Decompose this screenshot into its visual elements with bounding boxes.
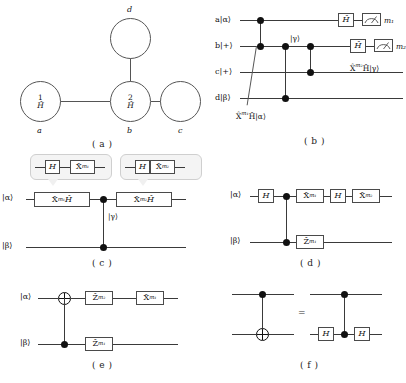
panel-d-gate-h1-label: H bbox=[263, 192, 270, 200]
panel-d-gate-x1[interactable]: X̂m₁ bbox=[296, 189, 324, 203]
panel-f-right-wire-bot-3 bbox=[370, 334, 382, 335]
graph-node-a-operator: Ĥ bbox=[37, 102, 44, 110]
panel-b-measure-b[interactable] bbox=[374, 39, 393, 52]
panel-f-right-control-dot-bottom[interactable] bbox=[341, 331, 348, 338]
panel-b-measure-result-1: m₁ bbox=[384, 16, 394, 25]
panel-c-bubble2-gate-x-sup: m₂ bbox=[162, 164, 169, 170]
panel-d-gate-x1-sup: m₁ bbox=[309, 193, 316, 199]
panel-e-cnot-link bbox=[64, 298, 65, 344]
panel-e-rail-label-alpha: |α⟩ bbox=[20, 292, 31, 301]
panel-b-h-gate-a-label: Ĥ bbox=[343, 16, 350, 24]
panel-d-gate-h2[interactable]: H bbox=[330, 189, 346, 203]
panel-b-cz-bd bbox=[285, 46, 286, 98]
panel-e-gate-z1[interactable]: Ẑm₁ bbox=[85, 337, 113, 351]
panel-b: a|α⟩ b|+⟩ c|+⟩ d|β⟩ Ĥ Ĥ bbox=[210, 0, 403, 148]
panel-c-wire-alpha-1 bbox=[26, 199, 34, 200]
panel-c-bubble2-tail bbox=[138, 179, 148, 186]
graph-node-d[interactable] bbox=[110, 18, 151, 59]
panel-c-bubble1-gate-h[interactable]: H bbox=[45, 160, 60, 174]
panel-b-control-dot-a[interactable] bbox=[257, 17, 264, 24]
panel-c-bubble2-gate-h-label: H bbox=[139, 163, 146, 171]
panel-b-h-gate-a[interactable]: Ĥ bbox=[338, 13, 354, 27]
panel-d: |α⟩ |β⟩ H X̂m₁ H X̂m₂ Ẑm₁ bbox=[210, 148, 403, 260]
panel-b-callout-text: X̂m₁Ĥ|α⟩ bbox=[236, 110, 266, 121]
panel-c-bubble1-wire-out bbox=[95, 167, 105, 168]
panel-b-rail-label-c: c|+⟩ bbox=[215, 67, 232, 76]
panel-d-gate-z1[interactable]: Ẑm₁ bbox=[296, 235, 324, 249]
panel-b-rail-label-a: a|α⟩ bbox=[215, 15, 231, 24]
panel-c-control-dot-top[interactable] bbox=[100, 196, 107, 203]
panel-b-control-dot-b1[interactable] bbox=[257, 43, 264, 50]
panel-f: = H H bbox=[210, 262, 403, 372]
panel-c-bubble2-wire-in bbox=[125, 167, 135, 168]
panel-e-gate-z2-sup: m₂ bbox=[98, 295, 105, 301]
node-label-d: d bbox=[127, 5, 132, 14]
panel-b-wire-b2 bbox=[366, 46, 374, 47]
panel-e-gate-x1[interactable]: X̂m₁ bbox=[136, 291, 164, 305]
panel-b-rail-label-b: b|+⟩ bbox=[215, 41, 233, 50]
panel-e-gate-z2[interactable]: Ẑm₂ bbox=[85, 291, 113, 305]
panel-c-main-gate-2[interactable]: X̂m₂Ĥ bbox=[116, 192, 172, 207]
panel-c-bubble1-wire-in bbox=[35, 167, 45, 168]
panel-b-control-dot-b3[interactable] bbox=[307, 43, 314, 50]
panel-e-wire-top-3 bbox=[113, 298, 136, 299]
panel-f-right-wire-bot-1 bbox=[310, 334, 318, 335]
panel-b-control-dot-b2[interactable] bbox=[282, 43, 289, 50]
edge-a-b bbox=[60, 101, 110, 102]
panel-d-control-dot-bottom[interactable] bbox=[283, 239, 290, 246]
panel-d-control-dot-top[interactable] bbox=[283, 193, 290, 200]
panel-b-output-c: X̂m₂Ĥ|γ⟩ bbox=[350, 62, 379, 73]
panel-e-control-dot[interactable] bbox=[61, 341, 68, 348]
panel-d-wire-top-1 bbox=[250, 196, 258, 197]
panel-e-gate-z1-sup: m₁ bbox=[98, 341, 105, 347]
panel-c-gamma-label: |γ⟩ bbox=[108, 212, 118, 221]
panel-e-wire-top-2 bbox=[71, 298, 85, 299]
panel-e-rail-label-beta: |β⟩ bbox=[20, 338, 30, 347]
panel-b-wire-d bbox=[240, 98, 403, 99]
panel-d-wire-bot-2 bbox=[324, 242, 392, 243]
panel-b-control-dot-d[interactable] bbox=[282, 95, 289, 102]
panel-b-control-dot-c[interactable] bbox=[307, 69, 314, 76]
graph-node-b-operator: Ĥ bbox=[127, 102, 134, 110]
panel-b-measure-a[interactable] bbox=[362, 13, 381, 26]
panel-b-callout-tail: Ĥ|α⟩ bbox=[249, 112, 266, 121]
node-label-c: c bbox=[178, 126, 182, 135]
panel-c-main-gate-1-sup: m₁ bbox=[58, 197, 65, 203]
panel-e-wire-top-1 bbox=[38, 298, 58, 299]
panel-c-rail-label-alpha: |α⟩ bbox=[2, 193, 13, 202]
panel-c-main-gate-1[interactable]: X̂m₁Ĥ bbox=[34, 192, 90, 207]
meter-icon bbox=[363, 14, 380, 25]
panel-c-bubble1-gate-x[interactable]: X̂m₁ bbox=[70, 160, 95, 174]
panel-f-right-cz-link bbox=[344, 294, 345, 334]
panel-c-bubble2-gate-h[interactable]: H bbox=[135, 160, 150, 174]
panel-f-right-gate-h2[interactable]: H bbox=[354, 327, 370, 341]
panel-f-caption: ( f ) bbox=[300, 360, 319, 370]
node-label-b: b bbox=[127, 126, 132, 135]
panel-c-bubble2-gate-x[interactable]: X̂m₂ bbox=[150, 160, 175, 174]
panel-d-gate-x2[interactable]: X̂m₂ bbox=[352, 189, 380, 203]
panel-e-wire-top-4 bbox=[164, 298, 178, 299]
panel-d-rail-label-alpha: |α⟩ bbox=[230, 190, 241, 199]
panel-c-bubble1-gate-x-sup: m₁ bbox=[82, 164, 89, 170]
panel-c-main-gate-2-tail: Ĥ bbox=[147, 196, 154, 204]
panel-b-callout-line bbox=[247, 46, 257, 105]
graph-node-b[interactable]: 2 Ĥ bbox=[110, 81, 151, 122]
panel-d-wire-top-5 bbox=[380, 196, 392, 197]
panel-f-right-control-dot-top[interactable] bbox=[341, 291, 348, 298]
panel-c-control-dot-bottom[interactable] bbox=[100, 244, 107, 251]
panel-c-bubble1-gate-h-label: H bbox=[49, 163, 56, 171]
panel-d-gate-h1[interactable]: H bbox=[258, 189, 274, 203]
panel-f-left-xor-target[interactable] bbox=[256, 328, 269, 341]
node-label-a: a bbox=[37, 126, 42, 135]
graph-node-a[interactable]: 1 Ĥ bbox=[20, 81, 61, 122]
panel-b-callout-sup: m₁ bbox=[241, 110, 248, 116]
meter-icon bbox=[375, 40, 392, 51]
panel-b-wire-a bbox=[240, 20, 338, 21]
panel-b-measure-result-2: m₂ bbox=[396, 42, 406, 51]
panel-c-bubble1-tail bbox=[48, 179, 58, 186]
panel-f-right-gate-h1[interactable]: H bbox=[318, 327, 334, 341]
panel-e: |α⟩ |β⟩ Ẑm₂ X̂m₁ Ẑm₁ bbox=[0, 262, 210, 372]
graph-node-c[interactable] bbox=[160, 81, 201, 122]
panel-b-h-gate-b[interactable]: Ĥ bbox=[350, 39, 366, 53]
panel-f-left-control-dot[interactable] bbox=[259, 291, 266, 298]
